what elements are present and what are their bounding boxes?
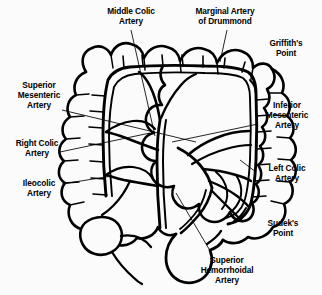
vasa-recta bbox=[142, 55, 143, 66]
label-superior-mesenteric-artery: Superior Mesenteric Artery bbox=[8, 80, 70, 111]
haustral-fold bbox=[70, 116, 84, 117]
cecum-outline bbox=[80, 217, 122, 255]
label-left-colic-artery: Left Colic Artery bbox=[258, 163, 316, 183]
vasa-recta bbox=[162, 55, 163, 66]
label-inferior-mesenteric-artery: Inferior Mesenteric Artery bbox=[256, 100, 318, 131]
vasa-recta bbox=[90, 161, 104, 162]
haustral-fold bbox=[278, 159, 291, 160]
vasa-recta bbox=[252, 196, 266, 197]
vasa-recta bbox=[182, 55, 183, 66]
vasa-recta bbox=[123, 56, 124, 68]
vasa-recta bbox=[93, 194, 107, 195]
haustral-fold bbox=[144, 58, 145, 70]
vasa-recta bbox=[224, 58, 225, 68]
label-sudeks-point: Sudek's Point bbox=[254, 218, 312, 238]
label-griffiths-point: Griffith's Point bbox=[256, 38, 316, 58]
vasa-recta bbox=[89, 127, 103, 128]
label-middle-colic-artery: Middle Colic Artery bbox=[92, 6, 170, 26]
haustral-fold bbox=[64, 160, 78, 161]
vasa-recta bbox=[92, 95, 105, 96]
haustral-fold bbox=[277, 137, 290, 138]
vasa-recta bbox=[257, 131, 271, 132]
haustral-fold bbox=[66, 138, 80, 139]
label-superior-hemorrhoidal-artery: Superior Hemorrhoidal Artery bbox=[188, 255, 266, 286]
haustral-fold bbox=[271, 201, 284, 204]
appendix bbox=[112, 252, 142, 284]
colon-arterial-supply-figure: Middle Colic Artery Marginal Artery of D… bbox=[0, 0, 322, 295]
vasa-recta bbox=[257, 148, 271, 149]
vasa-recta bbox=[90, 111, 104, 112]
haustral-fold bbox=[76, 94, 89, 95]
label-ileocolic-artery: Ileocolic Artery bbox=[10, 178, 68, 198]
label-right-colic-artery: Right Colic Artery bbox=[6, 138, 68, 158]
label-marginal-artery-of-drummond: Marginal Artery of Drummond bbox=[183, 6, 267, 26]
